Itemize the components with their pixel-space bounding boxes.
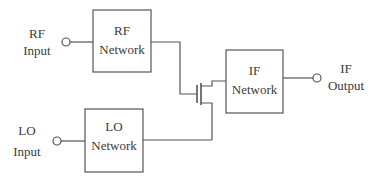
if-network-label-line2: Network xyxy=(226,81,283,98)
rf-input-label: RF Input xyxy=(20,25,54,59)
rf-to-gate-wire xyxy=(151,42,197,94)
rf-input-port-icon xyxy=(62,38,70,46)
rf-input-label-line2: Input xyxy=(20,42,54,59)
if-output-label-line2: Output xyxy=(324,77,368,94)
rf-network-label-line2: Network xyxy=(93,41,151,58)
rf-network-label-line1: RF xyxy=(93,22,151,39)
rf-network-label: RF Network xyxy=(93,22,151,58)
if-network-label-line1: IF xyxy=(226,62,283,79)
lo-network-label-line1: LO xyxy=(85,118,143,135)
fet-icon xyxy=(197,81,226,140)
lo-input-label-line2: Input xyxy=(8,143,46,160)
if-output-port-icon xyxy=(313,74,321,82)
lo-network-label: LO Network xyxy=(85,118,143,154)
if-output-label: IF Output xyxy=(324,60,368,94)
lo-network-label-line2: Network xyxy=(85,137,143,154)
lo-input-label: LO Input xyxy=(8,122,46,160)
if-network-label: IF Network xyxy=(226,62,283,98)
rf-input-label-line1: RF xyxy=(20,25,54,42)
if-output-label-line1: IF xyxy=(324,60,368,77)
lo-input-label-line1: LO xyxy=(8,122,46,139)
lo-input-port-icon xyxy=(53,137,61,145)
